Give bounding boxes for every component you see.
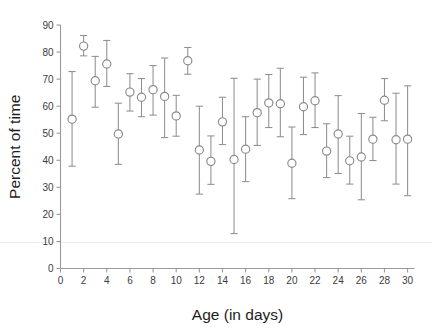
x-tick-label: 26	[356, 275, 368, 286]
data-point-group	[68, 72, 76, 167]
x-tick-label: 14	[217, 275, 229, 286]
data-point-marker	[68, 115, 76, 123]
data-point-marker	[265, 99, 273, 107]
data-point-group	[114, 103, 122, 164]
data-point-group	[161, 58, 169, 138]
data-point-marker	[195, 146, 203, 154]
x-tick-label: 12	[194, 275, 206, 286]
data-point-group	[242, 117, 250, 182]
data-point-group	[357, 113, 365, 199]
x-tick-label: 16	[240, 275, 252, 286]
x-tick-label: 0	[58, 275, 64, 286]
data-point-marker	[334, 130, 342, 138]
data-point-marker	[357, 153, 365, 161]
data-point-marker	[380, 96, 388, 104]
y-axis-title: Percent of time	[6, 95, 23, 199]
data-point-marker	[346, 157, 354, 165]
x-tick-label: 28	[379, 275, 391, 286]
data-point-group	[184, 47, 192, 74]
x-tick-label: 2	[81, 275, 87, 286]
data-point-marker	[218, 118, 226, 126]
y-tick-label: 20	[42, 209, 54, 220]
data-point-marker	[172, 112, 180, 120]
data-point-group	[276, 68, 284, 136]
x-axis-title: Age (in days)	[192, 306, 283, 323]
x-tick-label: 30	[402, 275, 414, 286]
data-point-group	[103, 40, 111, 86]
data-point-marker	[230, 155, 238, 163]
data-point-marker	[137, 93, 145, 101]
y-tick-label: 50	[42, 128, 54, 139]
data-point-marker	[242, 145, 250, 153]
data-point-group	[392, 93, 400, 184]
data-point-group	[91, 56, 99, 107]
data-point-group	[369, 117, 377, 160]
data-point-group	[137, 79, 145, 117]
data-point-marker	[276, 100, 284, 108]
data-point-marker	[207, 157, 215, 165]
x-tick-label: 18	[263, 275, 275, 286]
y-tick-label: 90	[42, 20, 54, 31]
data-point-group	[323, 124, 331, 178]
data-point-marker	[323, 147, 331, 155]
data-point-marker	[103, 60, 111, 68]
data-point-group	[218, 97, 226, 144]
data-point-marker	[149, 86, 157, 94]
x-tick-label: 4	[104, 275, 110, 286]
chart-canvas: 0102030405060708090024681012141618202224…	[0, 0, 432, 330]
data-point-marker	[80, 42, 88, 50]
data-point-marker	[114, 130, 122, 138]
data-point-marker	[161, 92, 169, 100]
data-point-group	[265, 75, 273, 128]
data-point-group	[380, 79, 388, 121]
data-point-group	[334, 96, 342, 174]
x-tick-label: 6	[127, 275, 133, 286]
data-point-marker	[369, 135, 377, 143]
data-point-group	[253, 79, 261, 145]
data-point-group	[230, 78, 238, 233]
data-point-group	[346, 136, 354, 184]
data-point-marker	[404, 135, 412, 143]
x-tick-label: 20	[286, 275, 298, 286]
data-point-group	[195, 106, 203, 194]
data-point-marker	[392, 136, 400, 144]
y-tick-label: 40	[42, 155, 54, 166]
y-tick-label: 30	[42, 182, 54, 193]
y-tick-label: 70	[42, 74, 54, 85]
x-tick-label: 8	[150, 275, 156, 286]
data-point-group	[207, 136, 215, 184]
y-tick-label: 10	[42, 236, 54, 247]
data-point-group	[126, 74, 134, 111]
data-point-marker	[91, 77, 99, 85]
y-tick-label: 80	[42, 47, 54, 58]
data-point-group	[172, 95, 180, 136]
x-tick-label: 24	[333, 275, 345, 286]
data-point-marker	[311, 97, 319, 105]
data-point-group	[149, 66, 157, 116]
data-point-group	[288, 127, 296, 199]
y-tick-label: 60	[42, 101, 54, 112]
data-point-group	[80, 36, 88, 56]
data-point-marker	[184, 57, 192, 65]
y-tick-label: 0	[48, 263, 54, 274]
x-tick-label: 10	[171, 275, 183, 286]
x-tick-label: 22	[309, 275, 321, 286]
data-point-marker	[299, 103, 307, 111]
scatter-chart-figure: 0102030405060708090024681012141618202224…	[0, 0, 432, 330]
data-point-marker	[288, 159, 296, 167]
data-point-marker	[126, 88, 134, 96]
data-point-group	[299, 77, 307, 134]
data-point-group	[404, 86, 412, 196]
data-point-marker	[253, 109, 261, 117]
data-point-group	[311, 73, 319, 128]
